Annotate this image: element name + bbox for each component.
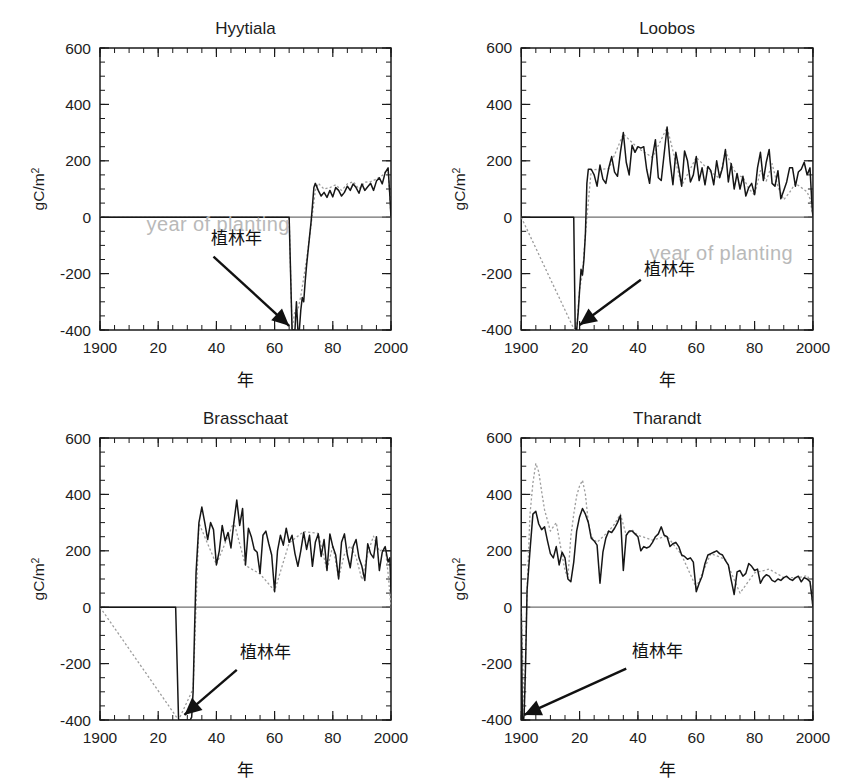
plot-frame bbox=[100, 438, 391, 720]
y-tick-label: 400 bbox=[486, 486, 512, 503]
y-tick-label: -400 bbox=[481, 712, 512, 729]
chart-panel-loobos: Loobos19002040608020006004002000-200-400… bbox=[421, 0, 843, 390]
y-axis-title: gC/m2 bbox=[29, 167, 47, 210]
x-tick-label: 20 bbox=[571, 339, 589, 356]
y-tick-label: 600 bbox=[486, 430, 512, 447]
x-axis-title: 年 bbox=[659, 760, 676, 780]
y-tick-label: -400 bbox=[60, 322, 91, 339]
chart-panel-hyytiala: Hyytiala19002040608020006004002000-200-4… bbox=[0, 0, 421, 390]
x-tick-label: 20 bbox=[571, 729, 589, 746]
y-tick-label: -200 bbox=[481, 265, 512, 282]
y-axis-title: gC/m2 bbox=[29, 557, 47, 600]
plot-frame bbox=[521, 48, 813, 330]
y-tick-label: -400 bbox=[481, 322, 512, 339]
plot-frame bbox=[521, 438, 813, 720]
x-tick-label: 2000 bbox=[796, 729, 831, 746]
x-axis-title: 年 bbox=[237, 760, 254, 780]
x-tick-label: 20 bbox=[150, 729, 168, 746]
x-tick-label: 80 bbox=[746, 729, 764, 746]
x-tick-label: 40 bbox=[208, 339, 226, 356]
x-tick-label: 2000 bbox=[796, 339, 831, 356]
x-tick-label: 1900 bbox=[504, 729, 539, 746]
panel-title: Loobos bbox=[639, 19, 695, 38]
panel-title: Hyytiala bbox=[215, 19, 276, 38]
x-tick-label: 2000 bbox=[374, 339, 409, 356]
y-tick-label: -200 bbox=[60, 265, 91, 282]
planting-year-label: 植林年 bbox=[632, 641, 683, 661]
x-tick-label: 60 bbox=[266, 729, 284, 746]
x-tick-label: 40 bbox=[629, 339, 647, 356]
x-tick-label: 1900 bbox=[83, 339, 118, 356]
y-tick-label: 0 bbox=[82, 599, 91, 616]
y-tick-label: -200 bbox=[481, 655, 512, 672]
y-tick-label: 200 bbox=[486, 152, 512, 169]
planting-year-label: 植林年 bbox=[240, 642, 291, 662]
x-tick-label: 1900 bbox=[83, 729, 118, 746]
chart-panel-tharandt: Tharandt19002040608020006004002000-200-4… bbox=[421, 390, 843, 780]
y-tick-label: -400 bbox=[60, 712, 91, 729]
planting-year-label: 植林年 bbox=[211, 228, 262, 248]
x-tick-label: 60 bbox=[266, 339, 284, 356]
y-tick-label: -200 bbox=[60, 655, 91, 672]
y-tick-label: 400 bbox=[65, 96, 91, 113]
four-panel-figure: Hyytiala19002040608020006004002000-200-4… bbox=[0, 0, 843, 780]
y-tick-label: 600 bbox=[65, 40, 91, 57]
x-tick-label: 1900 bbox=[504, 339, 539, 356]
y-tick-label: 0 bbox=[82, 209, 91, 226]
x-tick-label: 40 bbox=[208, 729, 226, 746]
series-line-dotted bbox=[100, 169, 391, 330]
x-axis-title: 年 bbox=[659, 370, 676, 390]
y-tick-label: 0 bbox=[504, 209, 513, 226]
y-axis-title: gC/m2 bbox=[450, 167, 468, 210]
series-line-solid bbox=[521, 127, 813, 330]
series-line-dotted bbox=[521, 463, 813, 714]
x-axis-title: 年 bbox=[237, 370, 254, 390]
x-tick-label: 60 bbox=[688, 339, 706, 356]
y-tick-label: 200 bbox=[65, 152, 91, 169]
x-tick-label: 60 bbox=[688, 729, 706, 746]
panel-title: Brasschaat bbox=[203, 409, 288, 428]
planting-year-arrowhead bbox=[580, 308, 598, 325]
panel-title: Tharandt bbox=[633, 409, 701, 428]
y-axis-title: gC/m2 bbox=[450, 557, 468, 600]
y-tick-label: 0 bbox=[504, 599, 513, 616]
x-tick-label: 20 bbox=[150, 339, 168, 356]
y-tick-label: 200 bbox=[65, 542, 91, 559]
series-line-solid bbox=[521, 509, 813, 721]
x-tick-label: 80 bbox=[746, 339, 764, 356]
plot-frame bbox=[100, 48, 391, 330]
planting-year-label: 植林年 bbox=[644, 259, 695, 279]
y-tick-label: 600 bbox=[486, 40, 512, 57]
y-tick-label: 400 bbox=[486, 96, 512, 113]
y-tick-label: 600 bbox=[65, 430, 91, 447]
y-tick-label: 400 bbox=[65, 486, 91, 503]
x-tick-label: 2000 bbox=[374, 729, 409, 746]
x-tick-label: 40 bbox=[629, 729, 647, 746]
x-tick-label: 80 bbox=[324, 339, 342, 356]
series-line-solid bbox=[100, 168, 391, 330]
chart-panel-brasschaat: Brasschaat19002040608020006004002000-200… bbox=[0, 390, 421, 780]
x-tick-label: 80 bbox=[324, 729, 342, 746]
series-line-solid bbox=[100, 500, 391, 720]
y-tick-label: 200 bbox=[486, 542, 512, 559]
